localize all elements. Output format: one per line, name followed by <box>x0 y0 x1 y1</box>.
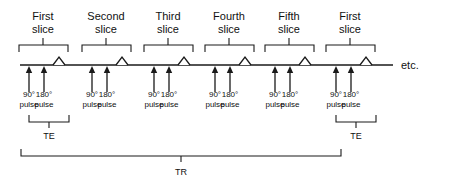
pulse-180-label-6: 180° <box>343 90 360 99</box>
echo-peak-1 <box>53 57 65 65</box>
pulse-180-sublabel-5: pulse <box>280 100 300 109</box>
pulse-180-sublabel-4: pulse <box>220 100 240 109</box>
te-bracket-2 <box>336 115 376 128</box>
slice-labels-group: FirstsliceSecondsliceThirdsliceFourthsli… <box>32 10 361 35</box>
pulse-180-sublabel-3: pulse <box>159 100 179 109</box>
slice-label-word-4: slice <box>218 23 240 35</box>
slice-bracket-4 <box>205 38 254 52</box>
pulse-180-label-4: 180° <box>222 90 239 99</box>
te-label-1: TE <box>43 131 55 141</box>
echo-peak-5 <box>299 57 311 65</box>
pulse-90-arrow-1-head <box>26 66 32 73</box>
slice-label-word-1: slice <box>32 23 54 35</box>
te-brackets-group: TETE <box>29 115 376 141</box>
tr-bracket <box>21 149 341 162</box>
slice-label-word-3: slice <box>157 23 179 35</box>
etc-label: etc. <box>401 59 419 71</box>
pulse-180-label-5: 180° <box>282 90 299 99</box>
pulse-90-label-1: 90° <box>23 90 35 99</box>
slice-label-ordinal-4: Fourth <box>213 10 245 22</box>
tr-bracket-group: TR <box>21 149 341 177</box>
te-bracket-1 <box>29 115 69 128</box>
slice-label-ordinal-6: First <box>339 10 360 22</box>
echo-peak-3 <box>178 57 190 65</box>
slice-bracket-5 <box>265 38 314 52</box>
pulse-180-arrow-5-head <box>287 66 293 73</box>
slice-label-word-2: slice <box>95 23 117 35</box>
slice-bracket-3 <box>144 38 193 52</box>
pulse-90-label-6: 90° <box>330 90 342 99</box>
slice-label-ordinal-3: Third <box>155 10 180 22</box>
pulse-180-arrow-6-head <box>348 66 354 73</box>
pulse-labels-group: 90°pulse180°pulse90°pulse180°pulse90°pul… <box>19 90 361 109</box>
pulse-180-label-2: 180° <box>99 90 116 99</box>
slice-label-word-6: slice <box>339 23 361 35</box>
echo-peak-6 <box>360 57 372 65</box>
pulse-180-arrow-4-head <box>227 66 233 73</box>
tr-label: TR <box>175 167 187 177</box>
te-label-2: TE <box>350 131 362 141</box>
pulse-180-arrow-2-head <box>104 66 110 73</box>
pulse-90-label-3: 90° <box>148 90 160 99</box>
slice-label-ordinal-5: Fifth <box>278 10 299 22</box>
pulse-90-arrow-4-head <box>212 66 218 73</box>
pulse-180-sublabel-2: pulse <box>97 100 117 109</box>
pulse-180-sublabel-1: pulse <box>34 100 54 109</box>
pulse-90-arrow-5-head <box>272 66 278 73</box>
echo-peak-2 <box>116 57 128 65</box>
diagram-canvas: FirstsliceSecondsliceThirdsliceFourthsli… <box>0 0 452 186</box>
pulse-180-arrow-3-head <box>166 66 172 73</box>
slice-bracket-6 <box>326 38 375 52</box>
slice-bracket-2 <box>82 38 131 52</box>
slice-label-ordinal-1: First <box>32 10 53 22</box>
slice-label-ordinal-2: Second <box>87 10 124 22</box>
pulse-90-arrow-3-head <box>151 66 157 73</box>
etc-label-group: etc. <box>401 59 419 71</box>
echo-peaks-group <box>53 57 372 65</box>
pulse-90-label-4: 90° <box>209 90 221 99</box>
pulse-90-arrow-2-head <box>89 66 95 73</box>
echo-peak-4 <box>239 57 251 65</box>
pulse-180-label-1: 180° <box>36 90 53 99</box>
slice-brackets-group <box>19 38 375 52</box>
pulse-180-label-3: 180° <box>161 90 178 99</box>
slice-label-word-5: slice <box>278 23 300 35</box>
slice-bracket-1 <box>19 38 68 52</box>
pulse-180-arrow-1-head <box>41 66 47 73</box>
pulse-90-label-2: 90° <box>86 90 98 99</box>
pulse-90-arrow-6-head <box>333 66 339 73</box>
pulse-arrows-group <box>26 66 354 92</box>
pulse-180-sublabel-6: pulse <box>341 100 361 109</box>
pulse-90-label-5: 90° <box>269 90 281 99</box>
pulse-sequence-diagram: FirstsliceSecondsliceThirdsliceFourthsli… <box>0 0 452 186</box>
